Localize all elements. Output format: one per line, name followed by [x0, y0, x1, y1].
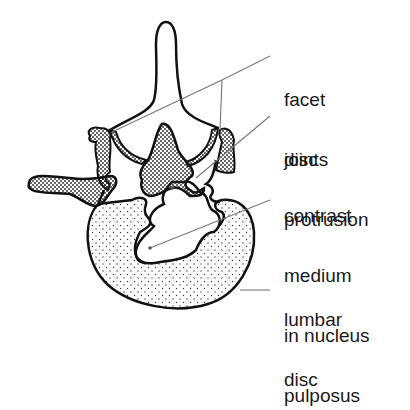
label-line: facet [284, 90, 328, 110]
label-line: contrast [284, 206, 370, 226]
contrast-medium-marker [148, 246, 152, 250]
right-articular-process-shape [216, 128, 235, 172]
label-lumbar-disc: lumbar disc [284, 270, 342, 410]
protrusion-marker [170, 186, 174, 190]
label-line: lumbar [284, 310, 342, 330]
label-line: disc [284, 370, 342, 390]
spinous-process-shape [110, 22, 218, 130]
